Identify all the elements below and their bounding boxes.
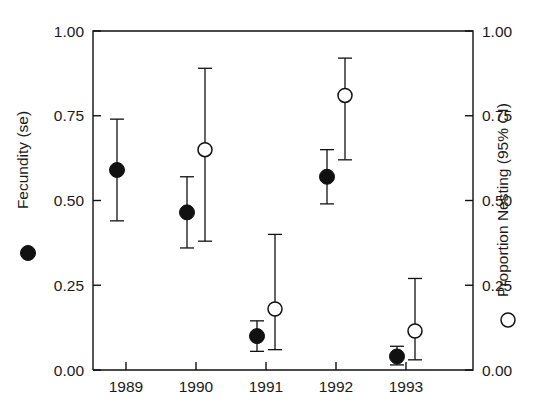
data-point-filled-circle-1989 [110,119,125,221]
right-tick-label: 0.00 [482,362,513,379]
data-point-open-circle-1990 [198,68,212,241]
x-tick-label: 1990 [179,378,214,395]
right-tick-label: 1.00 [482,23,513,40]
data-point-open-circle-1992 [338,58,352,160]
left-tick-label: 1.00 [54,23,85,40]
legend-filled-circle-icon [21,246,36,261]
filled-circle-marker [110,162,125,177]
left-tick-label: 0.75 [54,107,84,124]
left-tick-label: 0.50 [54,192,85,209]
legend-open-circle-icon [501,313,515,327]
open-circle-marker [198,143,212,157]
x-tick-label: 1992 [319,378,353,395]
left-tick-label: 0.25 [54,277,84,294]
left-tick-label: 0.00 [54,362,85,379]
open-circle-marker [338,88,352,102]
filled-circle-marker [180,205,195,220]
filled-circle-marker [250,329,265,344]
data-point-filled-circle-1993 [390,346,405,365]
x-tick-label: 1989 [109,378,143,395]
data-point-open-circle-1993 [408,278,422,359]
x-tick-label: 1993 [389,378,423,395]
open-circle-marker [408,324,422,338]
left-axis-ticks: 0.000.250.500.751.00 [54,23,101,379]
filled-circle-marker [390,349,405,364]
right-axis-title: Proportion Nesting (95% CI) [494,103,511,297]
data-point-filled-circle-1990 [180,177,195,248]
scatter-plot: 0.000.250.500.751.00 0.000.250.500.751.0… [0,0,533,418]
data-points-layer [110,58,423,365]
x-axis-ticks: 19891990199119921993 [109,362,423,395]
axis-labels-layer: Fecundity (se)Proportion Nesting (95% CI… [14,103,515,327]
data-point-filled-circle-1992 [320,150,335,204]
left-axis-title: Fecundity (se) [14,111,31,209]
data-point-filled-circle-1991 [250,321,265,352]
filled-circle-marker [320,169,335,184]
data-point-open-circle-1991 [268,234,282,349]
open-circle-marker [268,302,282,316]
x-tick-label: 1991 [249,378,283,395]
plot-frame [93,31,473,370]
figure-container: 0.000.250.500.751.00 0.000.250.500.751.0… [0,0,533,418]
plot-border [93,31,473,370]
